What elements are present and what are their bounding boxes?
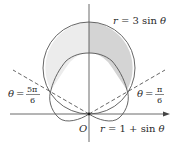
svg-text:θ: θ: [8, 88, 14, 99]
right-ray-label: θ = π 6: [137, 85, 164, 105]
circle-equation-label: r = 3 sin θ: [113, 15, 166, 26]
origin-label: O: [79, 123, 87, 134]
cardioid-equation-label: r = 1 + sin θ: [100, 123, 165, 134]
origin-point: [88, 113, 91, 116]
svg-text:6: 6: [157, 96, 162, 105]
svg-text:=: =: [16, 88, 24, 99]
svg-text:=: =: [145, 88, 153, 99]
polar-diagram: r = 3 sin θ r = 1 + sin θ O θ = π 6 θ = …: [0, 0, 179, 148]
svg-text:θ: θ: [137, 88, 143, 99]
shaded-region-left: [45, 22, 89, 90]
svg-text:π: π: [157, 85, 162, 94]
x-axis-arrow-icon: [163, 112, 170, 117]
svg-text:6: 6: [30, 96, 35, 105]
shaded-region-right: [89, 22, 133, 90]
left-ray-label: θ = 5π 6: [8, 85, 40, 105]
svg-text:5π: 5π: [27, 85, 37, 94]
